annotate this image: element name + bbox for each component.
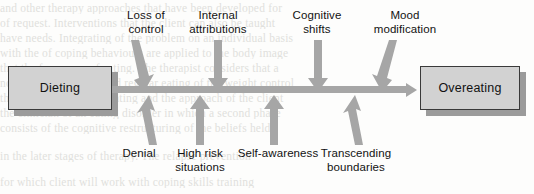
down-arrow-mood-modification [368,40,400,92]
bleedthrough-line: have needs. Integrating of the problem o… [0,32,534,44]
up-arrow-transcending-boundaries [334,95,364,145]
dieting-box-label: Dieting [40,81,80,95]
dieting-box: Dieting [8,66,112,110]
overeating-box: Overeating [420,66,520,110]
down-arrow-cognitive-shifts [308,40,330,92]
top-label-internal-attributions: Internal attributions [176,9,260,36]
bleedthrough-line: and other therapy approaches that have b… [0,2,534,14]
top-label-mood-modification: Mood modification [358,9,452,36]
down-arrow-internal-attributions [208,40,230,92]
bleedthrough-line: of request. Interventions that the clien… [0,17,534,29]
top-label-loss-of-control: Loss of control [106,9,186,36]
overeating-box-label: Overeating [438,81,501,95]
bottom-label-high-risk-situations: High risk situations [164,147,236,174]
diagram-canvas: and other therapy approaches that have b… [0,0,534,194]
up-arrow-denial [128,95,158,145]
top-label-cognitive-shifts: Cognitive shifts [279,9,355,36]
up-arrow-self-awareness [264,95,286,145]
up-arrow-high-risk-situations [190,95,212,145]
bottom-label-transcending-boundaries: Transcending boundaries [310,147,402,174]
bleedthrough-line: for which client will work with coping s… [0,176,534,188]
bleedthrough-line: with the of coping behaviours are applie… [0,47,534,59]
main-arrow-shaft [112,86,408,93]
main-arrow-head [406,83,417,97]
down-arrow-loss-of-control [128,40,158,92]
